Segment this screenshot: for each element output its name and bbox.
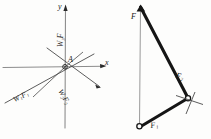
polygon-side-f2 — [141, 7, 189, 98]
vertex-bottom-marker — [137, 124, 142, 129]
force-label-F2: F₂ — [175, 72, 184, 82]
figure-canvas: y x A W₃F W₁F₁ W₂F₂ — [0, 0, 211, 139]
vertex-top-arrow — [137, 5, 146, 12]
polygon-side-f1 — [142, 99, 188, 127]
force-label-F: F — [131, 13, 136, 21]
polygon-side-vertical — [140, 8, 141, 127]
right-diagram-strokes — [0, 0, 211, 139]
force-label-F1: F₁ — [150, 121, 159, 130]
